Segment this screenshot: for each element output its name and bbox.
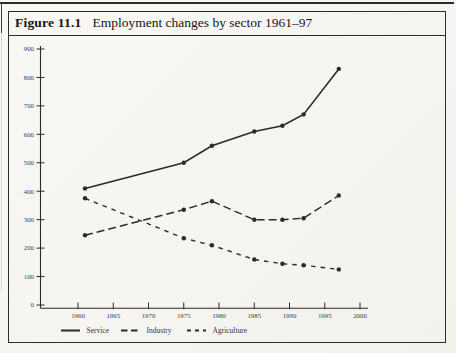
data-point [280, 124, 284, 128]
x-tick-label: 1975 [177, 312, 191, 319]
legend-label-service: Service [87, 326, 110, 335]
data-point [252, 129, 256, 133]
y-tick-label: 600 [24, 131, 35, 138]
x-tick-label: 1970 [142, 312, 156, 319]
x-tick-label: 1985 [247, 312, 261, 319]
data-point [210, 144, 214, 148]
series-service [83, 67, 341, 191]
data-point [252, 218, 256, 222]
x-tick-label: 1990 [283, 312, 297, 319]
y-tick-label: 900 [24, 45, 35, 52]
x-tick-label: 1995 [318, 312, 332, 319]
legend: ServiceIndustryAgriculture [61, 326, 248, 335]
data-point [210, 199, 214, 203]
y-tick-label: 0 [31, 301, 35, 308]
data-point [301, 216, 305, 220]
data-point [337, 67, 341, 71]
data-point [280, 262, 284, 266]
series-industry [83, 193, 341, 237]
y-tick-label: 400 [24, 188, 35, 195]
data-point [182, 161, 186, 165]
data-point [337, 193, 341, 197]
data-point [301, 263, 305, 267]
x-tick-label: 1965 [106, 312, 120, 319]
data-point [182, 236, 186, 240]
legend-label-agriculture: Agriculture [213, 326, 248, 335]
data-point [301, 112, 305, 116]
y-tick-label: 300 [24, 216, 35, 223]
x-tick-label: 1960 [71, 312, 85, 319]
tick-labels: 0100200300400500600700800900196019651970… [24, 45, 368, 318]
legend-label-industry: Industry [147, 326, 172, 335]
series-agriculture [83, 196, 341, 271]
data-point [83, 233, 87, 237]
y-tick-label: 200 [24, 244, 35, 251]
y-tick-label: 100 [24, 273, 35, 280]
data-point [83, 186, 87, 190]
data-point [210, 243, 214, 247]
tick-marks [37, 49, 361, 309]
data-point [280, 218, 284, 222]
x-tick-label: 1980 [212, 312, 226, 319]
data-point [337, 267, 341, 271]
employment-chart: 0100200300400500600700800900196019651970… [0, 0, 456, 353]
data-point [182, 208, 186, 212]
data-point [252, 257, 256, 261]
y-tick-label: 800 [24, 74, 35, 81]
x-tick-label: 2000 [353, 312, 367, 319]
y-tick-label: 500 [24, 159, 35, 166]
y-tick-label: 700 [24, 102, 35, 109]
data-point [83, 196, 87, 200]
axes [41, 46, 369, 308]
